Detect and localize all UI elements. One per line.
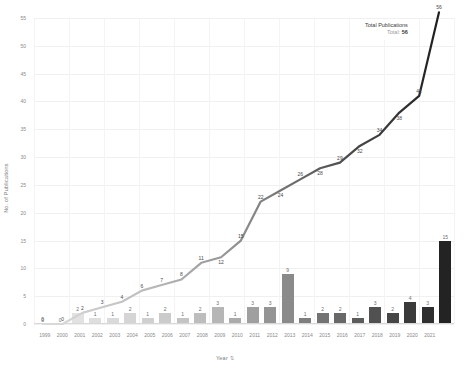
x-axis-tick-label[interactable]: 2001	[74, 332, 85, 338]
line-value-label: 6	[140, 283, 143, 289]
y-axis-tick-label: 10	[8, 265, 26, 271]
x-axis-tick-label[interactable]: 2016	[337, 332, 348, 338]
x-axis-tick-label[interactable]: 2002	[92, 332, 103, 338]
tooltip: Total Publications Total: 56	[361, 20, 412, 40]
y-axis-tick-label: 5	[8, 293, 26, 299]
line-value-label: 8	[180, 271, 183, 277]
y-axis-tick-label: 0	[8, 321, 26, 327]
x-axis-tick-label[interactable]: 2008	[197, 332, 208, 338]
tooltip-value: 56	[402, 29, 408, 35]
vertical-gridline	[454, 18, 455, 324]
bar-value-label: 2	[129, 306, 132, 312]
bar-value-label: 3	[374, 300, 377, 306]
x-axis-tick-label[interactable]: 2021	[424, 332, 435, 338]
bar-value-label: 3	[269, 300, 272, 306]
x-axis-tick-label[interactable]: 2018	[372, 332, 383, 338]
bar-value-label: 2	[391, 306, 394, 312]
cumulative-line	[34, 18, 454, 324]
bar-value-label: 1	[181, 311, 184, 317]
x-axis-tick-label[interactable]: 2013	[284, 332, 295, 338]
bar-value-label: 1	[234, 311, 237, 317]
bar-value-label: 3	[251, 300, 254, 306]
sort-arrow-icon[interactable]: ⇅	[230, 355, 234, 361]
y-axis-tick-label: 15	[8, 238, 26, 244]
x-axis-tick-label[interactable]: 2011	[249, 332, 260, 338]
bar-value-label: 9	[286, 267, 289, 273]
bar-value-label: 1	[356, 311, 359, 317]
x-axis-tick-label[interactable]: 2014	[302, 332, 313, 338]
bar-value-label: 2	[76, 306, 79, 312]
line-value-label: 24	[278, 192, 284, 198]
bar-value-label: 4	[409, 295, 412, 301]
line-value-label: 26	[297, 171, 303, 177]
x-axis-tick-label[interactable]: 2000	[57, 332, 68, 338]
line-value-label: 2	[81, 305, 84, 311]
y-axis-tick-label: 35	[8, 126, 26, 132]
line-value-label: 15	[238, 233, 244, 239]
y-axis-tick-label: 50	[8, 43, 26, 49]
y-axis-tick-label: 55	[8, 15, 26, 21]
x-axis-tick-label[interactable]: 2012	[267, 332, 278, 338]
y-axis-tick-label: 40	[8, 98, 26, 104]
x-axis-tick-label[interactable]: 2004	[127, 332, 138, 338]
line-value-label: 11	[199, 255, 204, 261]
line-value-label: 4	[121, 294, 124, 300]
line-value-label: 56	[436, 4, 442, 10]
publications-chart: No. of Publications Year⇅ 00234678111215…	[0, 0, 468, 372]
y-axis-tick-label: 20	[8, 210, 26, 216]
x-axis-tick-label[interactable]: 2015	[319, 332, 330, 338]
line-value-label: 41	[416, 88, 422, 94]
bar-value-label: 3	[216, 300, 219, 306]
x-axis-tick-label[interactable]: 2003	[109, 332, 120, 338]
x-axis-title: Year⇅	[216, 355, 276, 361]
line-value-label: 34	[377, 127, 383, 133]
x-axis-tick-label[interactable]: 2020	[407, 332, 418, 338]
bar-value-label: 3	[426, 300, 429, 306]
bar-value-label: 2	[164, 306, 167, 312]
y-axis-tick-label: 45	[8, 71, 26, 77]
x-axis-tick-label[interactable]: 2006	[162, 332, 173, 338]
line-value-label: 29	[337, 155, 343, 161]
y-axis-title-text: No. of Publications	[3, 163, 9, 213]
x-axis-tick-label[interactable]: 2019	[389, 332, 400, 338]
bar-value-label: 2	[339, 306, 342, 312]
x-axis-line	[34, 323, 454, 324]
line-value-label: 12	[218, 259, 224, 265]
x-axis-tick-label[interactable]: 2009	[214, 332, 225, 338]
bar-value-label: 1	[94, 311, 97, 317]
x-axis-tick-label[interactable]: 2005	[144, 332, 155, 338]
line-value-label: 22	[258, 194, 264, 200]
bar-value-label: 1	[146, 311, 149, 317]
line-value-label: 3	[101, 299, 104, 305]
bar-value-label: 2	[199, 306, 202, 312]
bar-value-label: 2	[321, 306, 324, 312]
line-value-label: 32	[357, 148, 363, 154]
y-axis-tick-label: 30	[8, 154, 26, 160]
y-axis-tick-label: 25	[8, 182, 26, 188]
line-value-label: 28	[317, 170, 323, 176]
tooltip-title: Total Publications	[365, 22, 408, 29]
x-axis-tick-label[interactable]: 2017	[354, 332, 365, 338]
x-axis-tick-label[interactable]: 2007	[179, 332, 190, 338]
tooltip-row: Total: 56	[365, 29, 408, 36]
bar-value-label: 15	[442, 234, 448, 240]
x-axis-tick-label[interactable]: 2010	[232, 332, 243, 338]
x-axis-tick-label[interactable]: 1999	[39, 332, 50, 338]
bar-value-label: 1	[304, 311, 307, 317]
gridline	[34, 324, 454, 325]
x-axis-title-text: Year	[216, 355, 228, 361]
line-value-label: 7	[160, 277, 163, 283]
tooltip-key: Total:	[387, 29, 400, 35]
bar-value-label: 1	[111, 311, 114, 317]
line-value-label: 38	[397, 115, 403, 121]
plot-area: 0023467811121522242628293234384156 00211…	[34, 18, 454, 324]
